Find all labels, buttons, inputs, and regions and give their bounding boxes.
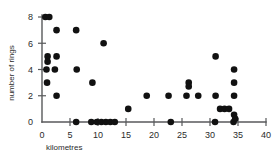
- data-point: [46, 14, 53, 21]
- y-tick-label: 0: [28, 117, 33, 127]
- data-point: [183, 92, 190, 99]
- data-point: [226, 106, 233, 113]
- data-point: [125, 106, 132, 113]
- x-tick-label: 20: [149, 130, 159, 140]
- data-point: [73, 119, 80, 126]
- x-tick-label: 10: [93, 130, 103, 140]
- y-tick-label: 6: [28, 39, 33, 49]
- y-tick-label: 4: [28, 65, 33, 75]
- data-point: [112, 119, 119, 126]
- data-point: [232, 115, 239, 122]
- data-point: [100, 40, 107, 47]
- data-point-series: [42, 14, 238, 126]
- data-point: [43, 66, 50, 73]
- x-tick-label: 0: [39, 130, 44, 140]
- y-axis-tick-labels: 02468: [28, 12, 33, 127]
- x-tick-label: 25: [177, 130, 187, 140]
- data-point: [231, 92, 238, 99]
- data-point: [143, 92, 150, 99]
- data-point: [53, 27, 60, 34]
- data-point: [195, 92, 202, 99]
- plot-canvas: 0510152025303540 02468 kilometres number…: [0, 0, 278, 158]
- scatter-plot-figure: 0510152025303540 02468 kilometres number…: [0, 0, 278, 158]
- data-point: [231, 79, 238, 86]
- x-axis-tick-labels: 0510152025303540: [39, 130, 271, 140]
- data-point: [212, 119, 219, 126]
- x-tick-label: 35: [233, 130, 243, 140]
- data-point: [52, 66, 59, 73]
- x-tick-label: 5: [67, 130, 72, 140]
- x-axis-title: kilometres: [46, 143, 82, 152]
- data-point: [53, 53, 60, 60]
- data-point: [73, 66, 80, 73]
- data-point: [89, 79, 96, 86]
- x-tick-label: 15: [121, 130, 131, 140]
- data-point: [212, 92, 219, 99]
- data-point: [44, 79, 51, 86]
- data-point: [44, 58, 51, 65]
- y-tick-label: 8: [28, 12, 33, 22]
- x-tick-label: 40: [261, 130, 271, 140]
- data-point: [212, 53, 219, 60]
- data-point: [185, 83, 192, 90]
- data-point: [231, 66, 238, 73]
- y-axis-title: number of rings: [7, 45, 16, 101]
- data-point: [168, 119, 175, 126]
- data-point: [73, 27, 80, 34]
- data-point: [165, 92, 172, 99]
- y-tick-label: 2: [28, 91, 33, 101]
- data-point: [53, 92, 60, 99]
- x-tick-label: 30: [205, 130, 215, 140]
